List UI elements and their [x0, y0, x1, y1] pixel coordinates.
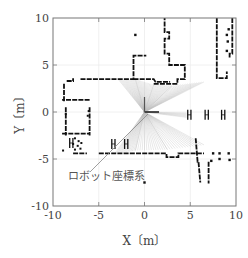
svg-text:5: 5 [42, 59, 49, 72]
chart: ロボット座標系 -10 -5 0 5 10 -10 -5 0 5 10 X〔m〕… [0, 0, 248, 258]
svg-text:-5: -5 [38, 153, 49, 166]
svg-text:5: 5 [187, 209, 194, 222]
svg-text:10: 10 [35, 12, 49, 25]
annotation-label: ロボット座標系 [68, 169, 145, 183]
svg-text:0: 0 [141, 209, 148, 222]
y-tick-labels: -10 -5 0 5 10 [31, 12, 49, 213]
x-axis-label: X〔m〕 [123, 234, 167, 248]
svg-text:0: 0 [42, 106, 49, 119]
svg-text:10: 10 [229, 209, 243, 222]
svg-text:-5: -5 [93, 209, 104, 222]
svg-text:-10: -10 [31, 200, 49, 213]
x-tick-labels: -10 -5 0 5 10 [44, 209, 243, 222]
y-axis-label: Y〔m〕 [13, 90, 27, 134]
